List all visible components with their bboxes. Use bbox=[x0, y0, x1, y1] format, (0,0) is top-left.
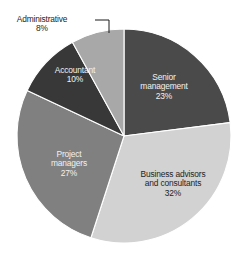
pie-chart-svg bbox=[0, 0, 245, 266]
pie-slices-group bbox=[17, 29, 231, 243]
slice-value: 8% bbox=[17, 24, 68, 33]
pie-slice-senior-management[interactable] bbox=[124, 29, 230, 136]
pie-chart-figure: Senior management 23% Business advisors … bbox=[0, 0, 245, 266]
slice-label-administrative: Administrative 8% bbox=[17, 15, 68, 34]
